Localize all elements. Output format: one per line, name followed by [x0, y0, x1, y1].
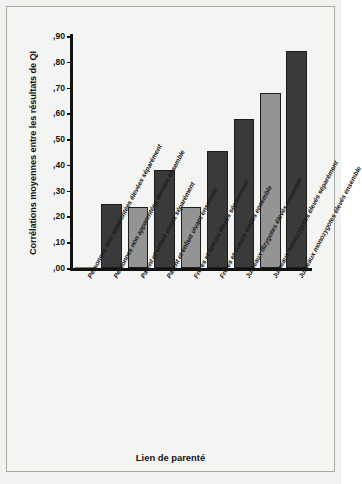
y-tick-mark	[67, 216, 72, 218]
y-tick-mark	[67, 165, 72, 167]
y-tick-mark	[67, 242, 72, 244]
y-tick-mark	[67, 36, 72, 38]
y-tick-label: ,40	[53, 160, 65, 170]
y-tick-mark	[67, 62, 72, 64]
x-axis-title: Lien de parenté	[0, 452, 341, 463]
y-tick-label: ,30	[53, 186, 65, 196]
y-tick-label: ,00	[53, 263, 65, 273]
y-tick-label: ,50	[53, 134, 65, 144]
y-tick-mark	[67, 191, 72, 193]
y-tick-mark	[67, 139, 72, 141]
y-tick-label: ,10	[53, 237, 65, 247]
y-tick-mark	[67, 88, 72, 90]
y-tick-label: ,80	[53, 57, 65, 67]
x-axis-tick-labels: Personnes non apparentées élevées séparé…	[0, 274, 341, 424]
y-axis-title: Corrélations moyennes entre les résultat…	[28, 28, 38, 278]
y-tick-mark	[67, 268, 72, 270]
y-tick-label: ,70	[53, 83, 65, 93]
y-tick-mark	[67, 113, 72, 115]
y-tick-label: ,20	[53, 211, 65, 221]
y-tick-label: ,60	[53, 108, 65, 118]
y-tick-label: ,90	[53, 31, 65, 41]
